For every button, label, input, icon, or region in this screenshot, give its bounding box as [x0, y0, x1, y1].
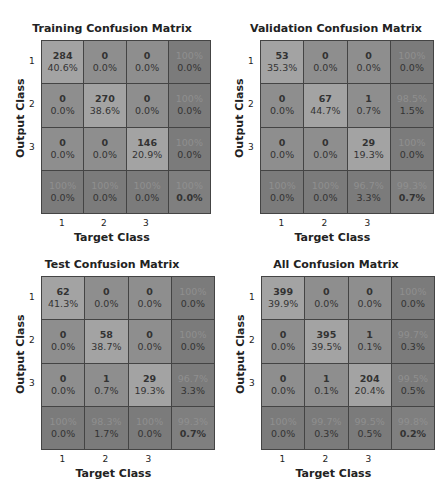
cell-percent: 0.0% — [313, 62, 337, 74]
overall-accuracy: 100% — [176, 180, 203, 192]
matrix-cell: 00.0% — [84, 128, 125, 170]
row-accuracy: 100% — [179, 286, 206, 298]
row-error: 0.0% — [400, 149, 424, 161]
overall-error: 0.7% — [180, 428, 206, 440]
cell-count: 0 — [59, 137, 66, 149]
overall-summary-cell: 100%0.0% — [169, 171, 210, 213]
cell-percent: 0.0% — [93, 62, 117, 74]
y-axis-label: Output Class — [233, 78, 246, 158]
matrix-cell: 00.0% — [129, 277, 171, 319]
y-tick: 1 — [29, 56, 35, 66]
cell-percent: 20.9% — [132, 149, 162, 161]
cell-count: 204 — [360, 373, 380, 385]
row-error: 0.0% — [181, 298, 205, 310]
y-axis-label: Output Class — [14, 314, 27, 394]
matrix-cell: 00.0% — [304, 128, 346, 170]
row-accuracy: 100% — [176, 93, 203, 105]
row-error: 3.3% — [181, 385, 205, 397]
column-accuracy: 100% — [50, 416, 77, 428]
x-tick: 1 — [280, 454, 286, 464]
column-error: 0.0% — [51, 192, 75, 204]
overall-accuracy: 99.3% — [178, 416, 208, 428]
row-error: 0.0% — [177, 149, 201, 161]
row-error: 0.0% — [400, 62, 424, 74]
cell-percent: 38.7% — [91, 341, 121, 353]
y-tick: 1 — [29, 292, 35, 302]
cell-percent: 0.0% — [51, 105, 75, 117]
x-tick: 3 — [366, 454, 372, 464]
cell-percent: 0.0% — [357, 62, 381, 74]
column-error: 0.3% — [314, 428, 338, 440]
row-summary-cell: 96.7%3.3% — [172, 364, 214, 406]
column-accuracy: 100% — [136, 416, 163, 428]
cell-percent: 0.0% — [51, 341, 75, 353]
column-accuracy: 100% — [134, 180, 161, 192]
matrix-cell: 5838.7% — [85, 320, 127, 362]
row-error: 0.0% — [181, 341, 205, 353]
cell-percent: 0.1% — [358, 341, 382, 353]
column-accuracy: 100% — [312, 180, 339, 192]
cell-count: 0 — [144, 50, 151, 62]
row-summary-cell: 100%0.0% — [169, 84, 210, 126]
row-summary-cell: 100%0.0% — [391, 128, 433, 170]
row-error: 1.5% — [400, 105, 424, 117]
row-accuracy: 100% — [179, 329, 206, 341]
y-axis-label: Output Class — [14, 78, 27, 158]
column-summary-cell: 100%0.0% — [262, 407, 304, 449]
column-error: 0.0% — [138, 428, 162, 440]
column-accuracy: 100% — [270, 416, 297, 428]
matrix-cell: 27038.6% — [84, 84, 125, 126]
column-error: 0.0% — [270, 192, 294, 204]
row-accuracy: 100% — [176, 50, 203, 62]
column-error: 0.0% — [51, 428, 75, 440]
cell-count: 0 — [60, 373, 67, 385]
cell-count: 53 — [276, 50, 289, 62]
column-summary-cell: 100%0.0% — [261, 171, 303, 213]
row-summary-cell: 100%0.0% — [392, 277, 434, 319]
column-accuracy: 100% — [49, 180, 76, 192]
matrix-cell: 00.0% — [262, 364, 304, 406]
column-summary-cell: 100%0.0% — [42, 407, 84, 449]
row-summary-cell: 100%0.0% — [169, 128, 210, 170]
cell-percent: 0.0% — [93, 149, 117, 161]
x-tick: 1 — [60, 454, 66, 464]
cell-count: 0 — [146, 286, 153, 298]
matrix-cell: 5335.3% — [261, 41, 303, 83]
matrix-cell: 10.7% — [85, 364, 127, 406]
row-error: 0.5% — [401, 385, 425, 397]
x-axis-label: Target Class — [76, 467, 152, 480]
column-error: 0.0% — [93, 192, 117, 204]
cell-percent: 19.3% — [354, 149, 384, 161]
matrix-cell: 28440.6% — [42, 41, 83, 83]
overall-error: 0.2% — [400, 428, 426, 440]
cell-count: 399 — [273, 286, 293, 298]
x-axis-label: Target Class — [74, 231, 150, 244]
x-tick: 1 — [59, 218, 65, 228]
matrix-cell: 00.0% — [42, 84, 83, 126]
overall-accuracy: 99.3% — [397, 180, 427, 192]
cell-count: 0 — [280, 373, 287, 385]
row-summary-cell: 100%0.0% — [391, 41, 433, 83]
matrix-cell: 00.0% — [304, 41, 346, 83]
row-summary-cell: 100%0.0% — [172, 277, 214, 319]
matrix-cell: 39939.9% — [262, 277, 304, 319]
column-summary-cell: 100%0.0% — [129, 407, 171, 449]
overall-error: 0.7% — [399, 192, 425, 204]
row-accuracy: 98.5% — [397, 93, 427, 105]
cell-count: 1 — [365, 93, 372, 105]
column-error: 3.3% — [357, 192, 381, 204]
row-accuracy: 99.5% — [398, 373, 428, 385]
cell-count: 0 — [366, 286, 373, 298]
column-accuracy: 96.7% — [354, 180, 384, 192]
chart-title: Test Confusion Matrix — [0, 258, 224, 271]
chart-title: All Confusion Matrix — [224, 258, 448, 271]
column-summary-cell: 100%0.0% — [304, 171, 346, 213]
column-summary-cell: 100%0.0% — [84, 171, 125, 213]
matrix-cell: 00.0% — [127, 84, 168, 126]
column-summary-cell: 99.7%0.3% — [305, 407, 347, 449]
row-summary-cell: 98.5%1.5% — [391, 84, 433, 126]
cell-count: 62 — [57, 286, 70, 298]
row-accuracy: 100% — [399, 286, 426, 298]
x-tick: 2 — [103, 454, 109, 464]
matrix-cell: 00.0% — [261, 84, 303, 126]
